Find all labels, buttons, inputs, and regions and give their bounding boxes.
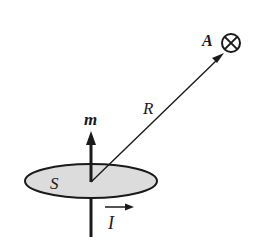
radius-vector xyxy=(91,59,218,182)
moment-arrowhead-icon xyxy=(86,131,96,145)
label-current-i: I xyxy=(107,213,115,233)
into-page-icon xyxy=(222,34,240,52)
dipole-diagram: S m R A I xyxy=(0,0,258,252)
radius-arrowhead-icon xyxy=(212,53,224,63)
label-moment-m: m xyxy=(84,110,97,129)
current-arrowhead-icon xyxy=(125,204,134,211)
label-point-a: A xyxy=(201,32,213,49)
label-area-s: S xyxy=(50,174,59,193)
label-radius-r: R xyxy=(142,99,154,118)
